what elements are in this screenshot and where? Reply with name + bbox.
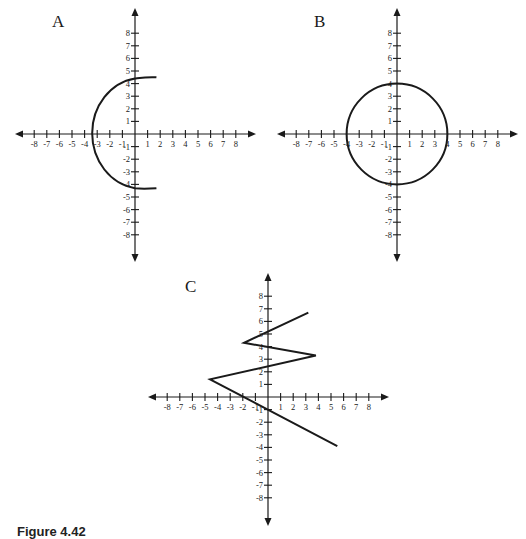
y-tick-label: 5 bbox=[388, 66, 392, 76]
y-tick-label: 8 bbox=[388, 28, 392, 38]
y-tick-label: -5 bbox=[385, 192, 392, 202]
y-tick-label: 7 bbox=[126, 41, 130, 51]
y-tick-label: 3 bbox=[388, 91, 392, 101]
x-tick-label: 7 bbox=[221, 139, 225, 149]
zigzag-curve bbox=[210, 313, 337, 447]
x-tick-label: 6 bbox=[341, 402, 345, 412]
x-tick-label: -2 bbox=[106, 139, 113, 149]
y-tick-label: -1 bbox=[385, 142, 392, 152]
arrow-up-icon bbox=[265, 273, 272, 281]
y-tick-label: 3 bbox=[259, 354, 263, 364]
x-tick-label: 5 bbox=[329, 402, 333, 412]
y-tick-label: -1 bbox=[123, 142, 130, 152]
x-tick-label: -2 bbox=[239, 402, 246, 412]
y-tick-label: 3 bbox=[126, 91, 130, 101]
y-tick-label: -6 bbox=[256, 468, 263, 478]
arrow-up-icon bbox=[394, 8, 401, 16]
y-tick-label: 2 bbox=[126, 104, 130, 114]
y-tick-label: -2 bbox=[123, 154, 130, 164]
x-tick-label: -8 bbox=[31, 139, 38, 149]
y-tick-label: 8 bbox=[259, 291, 263, 301]
x-tick-label: 1 bbox=[278, 402, 282, 412]
x-tick-label: 8 bbox=[367, 402, 371, 412]
arrow-left-icon bbox=[15, 131, 23, 138]
y-tick-label: -6 bbox=[123, 205, 130, 215]
x-tick-label: 4 bbox=[183, 139, 188, 149]
arrow-down-icon bbox=[132, 254, 139, 262]
x-tick-label: -6 bbox=[318, 139, 325, 149]
x-tick-label: -2 bbox=[368, 139, 375, 149]
figure-caption: Figure 4.42 bbox=[17, 524, 86, 539]
x-tick-label: -7 bbox=[43, 139, 50, 149]
x-tick-label: -4 bbox=[214, 402, 222, 412]
x-tick-label: 2 bbox=[291, 402, 295, 412]
x-tick-label: 1 bbox=[145, 139, 149, 149]
y-tick-label: 7 bbox=[388, 41, 392, 51]
y-tick-label: -8 bbox=[385, 230, 392, 240]
y-tick-label: 1 bbox=[126, 116, 130, 126]
y-tick-label: -3 bbox=[256, 430, 263, 440]
y-tick-label: -3 bbox=[385, 167, 392, 177]
y-tick-label: 1 bbox=[259, 379, 263, 389]
x-tick-label: 3 bbox=[433, 139, 437, 149]
y-tick-label: -5 bbox=[123, 192, 130, 202]
y-tick-label: 1 bbox=[388, 116, 392, 126]
x-tick-label: 1 bbox=[407, 139, 411, 149]
y-tick-label: -7 bbox=[123, 217, 130, 227]
x-tick-label: -8 bbox=[293, 139, 300, 149]
y-tick-label: 7 bbox=[259, 304, 263, 314]
y-tick-label: -8 bbox=[123, 230, 130, 240]
x-tick-label: 6 bbox=[208, 139, 212, 149]
x-tick-label: -6 bbox=[189, 402, 196, 412]
y-tick-label: -2 bbox=[256, 417, 263, 427]
x-tick-label: -4 bbox=[81, 139, 89, 149]
y-tick-label: -7 bbox=[385, 217, 392, 227]
x-tick-label: -6 bbox=[56, 139, 63, 149]
x-tick-label: 3 bbox=[304, 402, 308, 412]
x-tick-label: 6 bbox=[470, 139, 474, 149]
arrow-up-icon bbox=[132, 8, 139, 16]
x-tick-label: 5 bbox=[196, 139, 200, 149]
arrow-left-icon bbox=[277, 131, 285, 138]
panel-label: C bbox=[185, 277, 196, 296]
y-tick-label: 8 bbox=[126, 28, 130, 38]
arrow-right-icon bbox=[510, 131, 518, 138]
x-tick-label: 8 bbox=[234, 139, 238, 149]
x-tick-label: -7 bbox=[305, 139, 312, 149]
x-tick-label: 7 bbox=[354, 402, 358, 412]
x-tick-label: -3 bbox=[356, 139, 363, 149]
panel-label: B bbox=[314, 12, 325, 31]
y-tick-label: -3 bbox=[123, 167, 130, 177]
y-tick-label: 6 bbox=[388, 53, 392, 63]
y-tick-label: 6 bbox=[126, 53, 130, 63]
arrow-down-icon bbox=[394, 254, 401, 262]
y-tick-label: -2 bbox=[385, 154, 392, 164]
x-tick-label: -5 bbox=[201, 402, 208, 412]
y-tick-label: 2 bbox=[388, 104, 392, 114]
y-tick-label: 5 bbox=[126, 66, 130, 76]
arrow-right-icon bbox=[381, 394, 389, 401]
x-tick-label: 2 bbox=[158, 139, 162, 149]
x-tick-label: 2 bbox=[420, 139, 424, 149]
arrow-left-icon bbox=[148, 394, 156, 401]
x-tick-label: 7 bbox=[483, 139, 487, 149]
y-tick-label: 6 bbox=[259, 316, 263, 326]
graph-b: B-8-7-6-5-4-3-2-112345678-8-7-6-5-4-3-2-… bbox=[277, 8, 518, 262]
graph-c: C-8-7-6-5-4-3-2-112345678-8-7-6-5-4-3-2-… bbox=[148, 273, 389, 526]
panel-label: A bbox=[52, 12, 65, 31]
x-tick-label: -8 bbox=[164, 402, 171, 412]
x-tick-label: -5 bbox=[330, 139, 337, 149]
x-tick-label: -5 bbox=[68, 139, 75, 149]
x-tick-label: 5 bbox=[458, 139, 462, 149]
x-tick-label: 4 bbox=[316, 402, 321, 412]
arrow-down-icon bbox=[265, 518, 272, 526]
x-tick-label: 3 bbox=[171, 139, 175, 149]
x-tick-label: 8 bbox=[496, 139, 500, 149]
arrow-right-icon bbox=[248, 131, 256, 138]
y-tick-label: -7 bbox=[256, 480, 263, 490]
y-tick-label: -8 bbox=[256, 493, 263, 503]
graph-a: A-8-7-6-5-4-3-2-112345678-8-7-6-5-4-3-2-… bbox=[15, 8, 256, 262]
y-tick-label: -6 bbox=[385, 205, 392, 215]
y-tick-label: -5 bbox=[256, 455, 263, 465]
